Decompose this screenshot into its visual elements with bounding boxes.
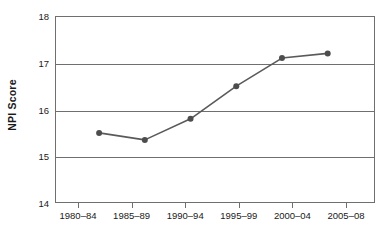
x-axis-label-1985-89: 1985–89 bbox=[113, 210, 150, 221]
x-axis-label-2000-04: 2000–04 bbox=[274, 210, 311, 221]
y-tick-label: 17 bbox=[9, 57, 55, 68]
x-axis-label-1990-94: 1990–94 bbox=[167, 210, 204, 221]
x-axis-tick bbox=[132, 203, 133, 208]
gridline-16 bbox=[56, 111, 374, 112]
x-axis-tick bbox=[346, 203, 347, 208]
gridline-15 bbox=[56, 157, 374, 158]
x-axis-tick bbox=[78, 203, 79, 208]
gridline-17 bbox=[56, 64, 374, 65]
x-axis-tick bbox=[239, 203, 240, 208]
x-axis-label-2005-08: 2005–08 bbox=[328, 210, 365, 221]
y-tick-label: 15 bbox=[9, 151, 55, 162]
x-axis-label-1995-99: 1995–99 bbox=[220, 210, 257, 221]
x-axis-tick bbox=[292, 203, 293, 208]
plot-area bbox=[55, 16, 375, 203]
x-axis-tick bbox=[185, 203, 186, 208]
y-tick-label: 16 bbox=[9, 104, 55, 115]
y-axis-tick-labels: 18 17 16 15 14 bbox=[0, 0, 55, 233]
chart-container: NPI Score 18 17 16 15 14 1980–84 1985–89… bbox=[0, 0, 391, 233]
x-axis-label-1980-84: 1980–84 bbox=[60, 210, 97, 221]
y-tick-label: 14 bbox=[9, 198, 55, 209]
y-tick-label: 18 bbox=[9, 11, 55, 22]
